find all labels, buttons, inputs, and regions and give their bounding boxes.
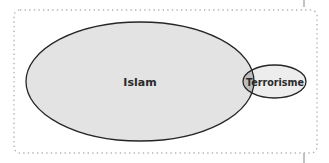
- islam-label: Islam: [123, 76, 156, 89]
- terrorisme-label: Terrorisme: [246, 76, 304, 88]
- euler-diagram: Islam Terrorisme: [0, 0, 329, 163]
